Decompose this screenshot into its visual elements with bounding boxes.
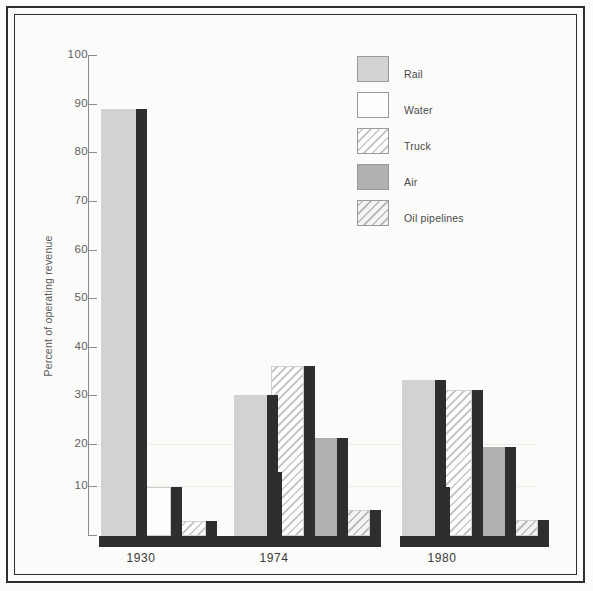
legend-swatch-rail (357, 56, 389, 82)
legend-label-rail: Rail (404, 68, 423, 80)
legend-label-water: Water (404, 104, 433, 116)
bar-side (304, 366, 315, 536)
bar-side (435, 380, 446, 536)
bar-1980-rail (402, 380, 435, 536)
bar-face (234, 395, 267, 536)
legend-swatch-air (357, 164, 389, 190)
y-tick-label-80: 80 (54, 145, 88, 157)
floor-1974 (243, 536, 381, 547)
y-tick-70 (88, 201, 97, 202)
bar-side (337, 438, 348, 536)
floor-1930 (110, 536, 235, 547)
bar-side (171, 487, 182, 536)
y-tick-60 (88, 250, 97, 251)
y-tick-label-30: 30 (54, 388, 88, 400)
y-tick-30 (88, 395, 97, 396)
y-tick-80 (88, 152, 97, 153)
bar-1930-rail (101, 109, 136, 536)
y-tick-100 (88, 55, 97, 56)
group-label-1930: 1930 (101, 551, 181, 565)
y-tick-label-70: 70 (54, 194, 88, 206)
chart-page: 100 90 80 70 60 50 40 30 20 10 Percent o… (0, 0, 593, 591)
floor-cap-1980 (400, 536, 411, 547)
floor-1980 (411, 536, 549, 547)
plot-area: 100 90 80 70 60 50 40 30 20 10 Percent o… (0, 0, 593, 591)
legend-swatch-water (357, 92, 389, 118)
y-axis-title: Percent of operating revenue (42, 196, 54, 416)
bar-side (370, 510, 381, 536)
legend-label-oil-pipelines: Oil pipelines (404, 212, 464, 224)
legend-swatch-oil-pipelines (357, 200, 389, 226)
bar-face (101, 109, 136, 536)
legend-label-air: Air (404, 176, 417, 188)
y-axis-line (88, 55, 89, 535)
floor-cap-1974 (232, 536, 243, 547)
y-tick-label-100: 100 (54, 48, 88, 60)
bar-side (136, 109, 147, 536)
bar-side (538, 520, 549, 536)
group-label-1974: 1974 (234, 551, 314, 565)
y-tick-20 (88, 444, 97, 445)
legend-swatch-truck (357, 128, 389, 154)
bar-face (402, 380, 435, 536)
floor-cap-1930 (99, 536, 110, 547)
y-tick-50 (88, 298, 97, 299)
y-tick-40 (88, 347, 97, 348)
y-tick-90 (88, 104, 97, 105)
group-label-1980: 1980 (402, 551, 482, 565)
y-tick-label-90: 90 (54, 97, 88, 109)
bar-side (267, 395, 278, 536)
y-axis-base-cap (88, 535, 97, 536)
y-tick-label-20: 20 (54, 437, 88, 449)
y-tick-label-60: 60 (54, 243, 88, 255)
y-tick-10 (88, 486, 97, 487)
y-tick-label-40: 40 (54, 340, 88, 352)
bar-side (206, 521, 217, 536)
bar-side (472, 390, 483, 536)
y-tick-label-50: 50 (54, 291, 88, 303)
legend-label-truck: Truck (404, 140, 431, 152)
y-tick-label-10: 10 (54, 479, 88, 491)
bar-1974-rail (234, 395, 267, 536)
bar-side (505, 447, 516, 536)
